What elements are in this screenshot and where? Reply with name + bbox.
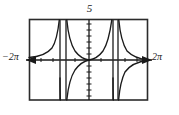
curve-branch-4 <box>89 20 112 60</box>
curve-branch-6 <box>119 61 148 101</box>
axis-label-top: 5 <box>0 3 179 14</box>
curve-branch-2 <box>67 20 89 60</box>
curve-branch-3 <box>67 60 89 100</box>
curve-branch-5 <box>119 20 148 60</box>
axis-label-left: −2π <box>2 52 19 62</box>
axis-label-right: 2π <box>152 52 162 62</box>
graph-figure: 5 −2π 2π <box>0 0 179 115</box>
curve-branch-1 <box>29 20 59 58</box>
